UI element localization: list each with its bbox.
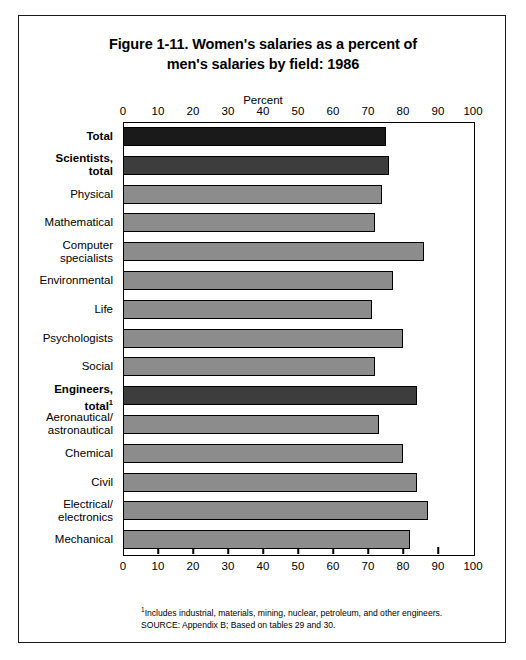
category-label: Psychologists bbox=[43, 332, 113, 345]
bar bbox=[123, 242, 424, 261]
axis-tick-label: 70 bbox=[362, 105, 375, 117]
axis-tick-label: 40 bbox=[257, 560, 270, 572]
footnote-line: 1Includes industrial, materials, mining,… bbox=[141, 604, 491, 619]
category-label: Chemical bbox=[65, 447, 113, 460]
category-label-line: Mathematical bbox=[45, 216, 113, 229]
axis-tick-label: 40 bbox=[257, 105, 270, 117]
title-line-1: Figure 1-11. Women's salaries as a perce… bbox=[19, 34, 507, 54]
axis-tick-label: 80 bbox=[397, 560, 410, 572]
category-label: Computerspecialists bbox=[60, 239, 113, 265]
axis-tick-label: 80 bbox=[397, 105, 410, 117]
axis-tick-label: 90 bbox=[432, 560, 445, 572]
bar bbox=[123, 156, 389, 175]
source-line: SOURCE: Appendix B; Based on tables 29 a… bbox=[141, 619, 491, 631]
category-label-line: Mechanical bbox=[55, 533, 113, 546]
category-label: Social bbox=[82, 360, 113, 373]
title-line-2: men's salaries by field: 1986 bbox=[19, 54, 507, 74]
category-label-line: specialists bbox=[60, 252, 113, 265]
axis-tick-label: 100 bbox=[463, 560, 482, 572]
category-label: Civil bbox=[91, 476, 113, 489]
bar bbox=[123, 530, 410, 549]
figure-title: Figure 1-11. Women's salaries as a perce… bbox=[19, 34, 507, 74]
category-label-line: Computer bbox=[60, 239, 113, 252]
category-label-line: Chemical bbox=[65, 447, 113, 460]
axis-tick-label: 30 bbox=[222, 560, 235, 572]
axis-tick-label: 0 bbox=[120, 105, 126, 117]
category-label-line: Scientists, bbox=[55, 152, 113, 165]
axis-tick-label: 10 bbox=[152, 560, 165, 572]
bar bbox=[123, 213, 375, 232]
category-label-line: Psychologists bbox=[43, 332, 113, 345]
category-label-line: Physical bbox=[70, 188, 113, 201]
category-label: Total bbox=[86, 130, 113, 143]
axis-tick bbox=[437, 547, 439, 554]
category-label-line: Total bbox=[86, 130, 113, 143]
category-label-line: Aeronautical/ bbox=[46, 411, 113, 424]
bar bbox=[123, 271, 393, 290]
axis-tick-label: 60 bbox=[327, 105, 340, 117]
category-label-line: astronautical bbox=[46, 424, 113, 437]
footnotes: 1Includes industrial, materials, mining,… bbox=[141, 604, 491, 631]
category-label: Mechanical bbox=[55, 533, 113, 546]
axis-tick-label: 70 bbox=[362, 560, 375, 572]
bar bbox=[123, 127, 386, 146]
axis-tick-label: 0 bbox=[120, 560, 126, 572]
category-label: Physical bbox=[70, 188, 113, 201]
axis-tick-label: 60 bbox=[327, 560, 340, 572]
axis-tick-label: 30 bbox=[222, 105, 235, 117]
bar bbox=[123, 185, 382, 204]
category-label: Aeronautical/astronautical bbox=[46, 411, 113, 437]
bar bbox=[123, 415, 379, 434]
axis-tick-label: 20 bbox=[187, 560, 200, 572]
category-label-line: electronics bbox=[58, 511, 113, 524]
category-label: Mathematical bbox=[45, 216, 113, 229]
category-label-line: Engineers, bbox=[54, 383, 113, 396]
axis-tick-label: 100 bbox=[463, 105, 482, 117]
category-label: Life bbox=[94, 303, 113, 316]
category-label-line: total bbox=[55, 165, 113, 178]
category-label: Scientists,total bbox=[55, 152, 113, 178]
category-label: Engineers,total1 bbox=[54, 383, 113, 413]
category-label-line: Electrical/ bbox=[58, 498, 113, 511]
category-label: Electrical/electronics bbox=[58, 498, 113, 524]
bar bbox=[123, 357, 375, 376]
label-superscript: 1 bbox=[109, 398, 113, 407]
category-label-line: Social bbox=[82, 360, 113, 373]
category-label-line: Civil bbox=[91, 476, 113, 489]
axis-tick-label: 50 bbox=[292, 560, 305, 572]
bar bbox=[123, 501, 428, 520]
category-label-line: total1 bbox=[54, 396, 113, 413]
category-label: Environmental bbox=[39, 274, 113, 287]
axis-tick-label: 90 bbox=[432, 105, 445, 117]
bar bbox=[123, 473, 417, 492]
bar bbox=[123, 300, 372, 319]
category-label-line: Life bbox=[94, 303, 113, 316]
axis-tick-label: 50 bbox=[292, 105, 305, 117]
bar bbox=[123, 329, 403, 348]
category-label-line: Environmental bbox=[39, 274, 113, 287]
footnote-text: Includes industrial, materials, mining, … bbox=[145, 608, 443, 618]
figure-frame: Figure 1-11. Women's salaries as a perce… bbox=[18, 15, 506, 643]
axis-tick-label: 10 bbox=[152, 105, 165, 117]
axis-tick-label: 20 bbox=[187, 105, 200, 117]
bar bbox=[123, 444, 403, 463]
bar bbox=[123, 386, 417, 405]
